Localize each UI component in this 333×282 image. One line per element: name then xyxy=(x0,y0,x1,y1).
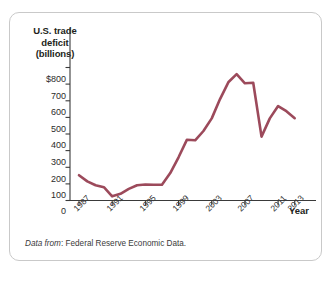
data-line-us-trade-deficit xyxy=(79,74,295,196)
chart-plot xyxy=(10,13,323,262)
y-axis-ticks xyxy=(66,68,71,201)
source-note-body: Federal Reserve Economic Data. xyxy=(66,239,187,248)
source-note-prefix: Data from xyxy=(25,239,61,248)
source-note-separator: : xyxy=(61,239,63,248)
source-note: Data from: Federal Reserve Economic Data… xyxy=(25,239,186,248)
x-axis-ticks xyxy=(79,201,295,206)
chart-figure: U.S. trade deficit (billions) $800 700 6… xyxy=(9,12,322,261)
